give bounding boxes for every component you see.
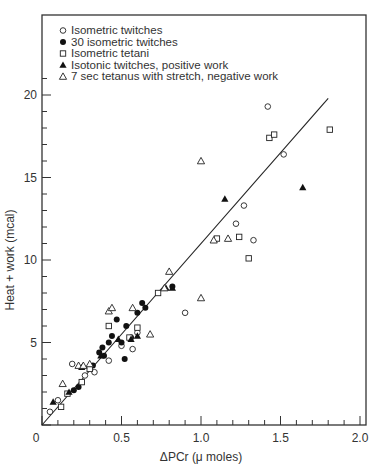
legend-entry: Isometric tetani	[71, 47, 149, 59]
open-circle-marker	[60, 28, 66, 34]
open-circle-marker	[241, 203, 247, 209]
open-square-marker	[79, 379, 84, 384]
open-triangle-marker	[224, 235, 231, 241]
open-square-marker	[58, 404, 63, 409]
open-circle-marker	[69, 361, 75, 367]
open-circle-marker	[130, 346, 136, 352]
filled-circle-marker	[142, 305, 148, 311]
x-tick-label: 1.5	[272, 431, 289, 445]
legend-entry: 7 sec tetanus with stretch, negative wor…	[71, 70, 278, 82]
open-triangle-marker	[108, 304, 115, 310]
x-tick-label: 0.5	[113, 431, 130, 445]
x-tick-label: 1.0	[193, 431, 210, 445]
open-circle-marker	[281, 152, 287, 158]
x-tick-label: 0	[33, 431, 40, 445]
x-tick-label: 2.0	[352, 431, 369, 445]
open-circle-marker	[82, 373, 88, 379]
legend-entry: 30 isometric twitches	[71, 36, 178, 48]
legend: Isometric twitches30 isometric twitchesI…	[59, 24, 278, 82]
open-triangle-marker	[197, 157, 204, 163]
y-tick-label: 15	[24, 171, 38, 185]
y-tick-label: 20	[24, 88, 38, 102]
filled-triangle-marker	[299, 184, 306, 190]
open-circle-marker	[233, 221, 239, 227]
y-axis-label: Heat + work (mcal)	[3, 209, 17, 310]
open-circle-marker	[47, 409, 53, 415]
filled-triangle-marker	[115, 336, 122, 342]
filled-circle-marker	[122, 356, 128, 362]
filled-circle-marker	[109, 333, 115, 339]
open-triangle-marker	[197, 294, 204, 300]
y-tick-label: 5	[30, 336, 37, 350]
open-triangle-marker	[59, 380, 66, 386]
filled-circle-marker	[114, 316, 120, 322]
axis-ticks	[42, 79, 360, 426]
data-points	[47, 104, 332, 415]
filled-circle-marker	[106, 340, 112, 346]
open-circle-marker	[182, 310, 188, 316]
open-square-marker	[135, 325, 140, 330]
filled-triangle-marker	[221, 195, 228, 201]
open-circle-marker	[251, 237, 257, 243]
open-square-marker	[236, 234, 241, 239]
legend-entry: Isometric twitches	[71, 24, 163, 36]
scatter-chart: 00.51.01.52.05101520 Isometric twitches3…	[0, 0, 381, 468]
legend-entry: Isotonic twitches, positive work	[71, 59, 228, 71]
open-circle-marker	[55, 397, 61, 403]
open-circle-marker	[265, 104, 271, 110]
open-square-marker	[106, 323, 111, 328]
filled-triangle-marker	[59, 61, 66, 67]
open-triangle-marker	[59, 73, 66, 79]
open-circle-marker	[106, 358, 112, 364]
filled-circle-marker	[60, 39, 66, 45]
filled-circle-marker	[99, 344, 105, 350]
open-triangle-marker	[166, 268, 173, 274]
x-axis-label: ΔPCr (μ moles)	[160, 450, 242, 464]
open-triangle-marker	[147, 331, 154, 337]
open-square-marker	[327, 127, 332, 132]
open-square-marker	[60, 51, 65, 56]
y-tick-label: 10	[24, 253, 38, 267]
filled-circle-marker	[139, 300, 145, 306]
open-triangle-marker	[129, 304, 136, 310]
open-square-marker	[271, 132, 276, 137]
filled-circle-marker	[123, 323, 129, 329]
open-square-marker	[246, 256, 251, 261]
open-square-marker	[155, 290, 160, 295]
